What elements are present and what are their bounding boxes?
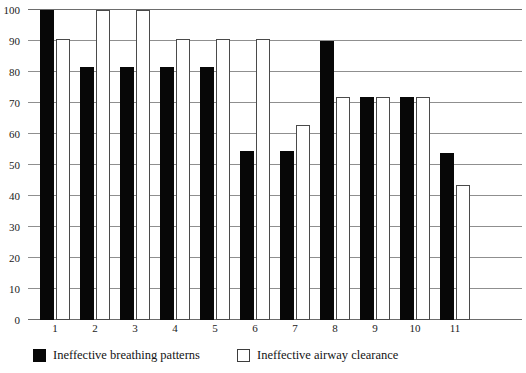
x-tick-label-9: 9 bbox=[360, 323, 390, 334]
legend-label-airway-clearance: Ineffective airway clearance bbox=[257, 349, 398, 362]
y-tick-label-10: 10 bbox=[0, 284, 20, 295]
bar bbox=[136, 10, 150, 320]
bar-chart: 0102030405060708090100 1234567891011 Ine… bbox=[0, 0, 526, 373]
bar bbox=[176, 39, 190, 320]
bar bbox=[160, 67, 174, 320]
x-tick-label-4: 4 bbox=[160, 323, 190, 334]
legend-item-breathing-patterns: Ineffective breathing patterns bbox=[33, 346, 200, 364]
y-tick-label-100: 100 bbox=[0, 5, 20, 16]
plot-area bbox=[28, 10, 522, 320]
bar-group bbox=[120, 10, 150, 320]
y-tick-label-0: 0 bbox=[0, 315, 20, 326]
bar bbox=[456, 185, 470, 320]
bar bbox=[440, 153, 454, 320]
bar-group bbox=[40, 10, 70, 320]
legend-label-breathing-patterns: Ineffective breathing patterns bbox=[53, 349, 200, 362]
bar bbox=[400, 97, 414, 320]
legend-swatch-hollow-icon bbox=[237, 349, 250, 362]
x-tick-label-6: 6 bbox=[240, 323, 270, 334]
x-tick-label-1: 1 bbox=[40, 323, 70, 334]
bar-group bbox=[400, 10, 430, 320]
bar bbox=[296, 125, 310, 320]
bar bbox=[336, 97, 350, 320]
bar-group bbox=[80, 10, 110, 320]
y-tick-label-70: 70 bbox=[0, 98, 20, 109]
bar bbox=[80, 67, 94, 320]
y-tick-label-30: 30 bbox=[0, 222, 20, 233]
x-axis-tick-labels: 1234567891011 bbox=[28, 320, 522, 338]
x-tick-label-5: 5 bbox=[200, 323, 230, 334]
bar bbox=[416, 97, 430, 320]
chart-legend: Ineffective breathing patterns Ineffecti… bbox=[30, 346, 500, 368]
y-tick-label-20: 20 bbox=[0, 253, 20, 264]
bar bbox=[200, 67, 214, 320]
x-tick-label-8: 8 bbox=[320, 323, 350, 334]
bar bbox=[360, 97, 374, 320]
bar-group bbox=[200, 10, 230, 320]
y-tick-label-50: 50 bbox=[0, 160, 20, 171]
bar bbox=[280, 151, 294, 320]
bar bbox=[376, 97, 390, 320]
legend-item-airway-clearance: Ineffective airway clearance bbox=[237, 346, 398, 364]
y-tick-label-40: 40 bbox=[0, 191, 20, 202]
y-tick-label-60: 60 bbox=[0, 129, 20, 140]
bar-group bbox=[320, 10, 350, 320]
x-tick-label-3: 3 bbox=[120, 323, 150, 334]
bar-group bbox=[440, 10, 470, 320]
x-tick-label-10: 10 bbox=[400, 323, 430, 334]
bar bbox=[40, 10, 54, 320]
y-tick-label-80: 80 bbox=[0, 67, 20, 78]
bar bbox=[96, 10, 110, 320]
x-tick-label-11: 11 bbox=[440, 323, 470, 334]
legend-swatch-filled-icon bbox=[33, 349, 46, 362]
bar bbox=[56, 39, 70, 320]
bar-group bbox=[280, 10, 310, 320]
bar-groups bbox=[28, 10, 522, 320]
bar-group bbox=[360, 10, 390, 320]
x-tick-label-2: 2 bbox=[80, 323, 110, 334]
x-tick-label-7: 7 bbox=[280, 323, 310, 334]
bar bbox=[120, 67, 134, 320]
bar bbox=[216, 39, 230, 320]
bar bbox=[320, 41, 334, 320]
bar bbox=[256, 39, 270, 320]
bar-group bbox=[160, 10, 190, 320]
bar bbox=[240, 151, 254, 320]
bar-group bbox=[240, 10, 270, 320]
y-tick-label-90: 90 bbox=[0, 36, 20, 47]
